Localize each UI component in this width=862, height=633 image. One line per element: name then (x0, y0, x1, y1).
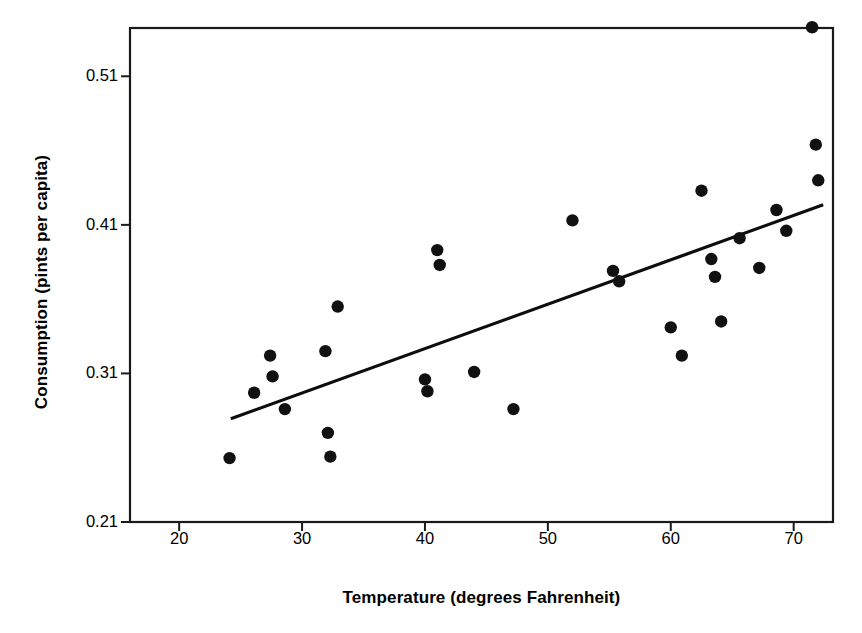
data-point-8 (332, 300, 344, 312)
data-point-24 (733, 232, 745, 244)
data-point-7 (324, 450, 336, 462)
data-point-1 (248, 387, 260, 399)
data-points (223, 21, 824, 464)
x-tick-label-2: 40 (395, 530, 455, 547)
data-point-9 (419, 373, 431, 385)
data-point-29 (810, 138, 822, 150)
data-point-2 (264, 349, 276, 361)
scatter-plot-figure: Consumption (pints per capita) Temperatu… (0, 0, 862, 633)
y-tick-label-2: 0.41 (86, 216, 118, 233)
data-point-10 (421, 385, 433, 397)
data-point-4 (279, 403, 291, 415)
data-point-6 (322, 427, 334, 439)
data-point-13 (468, 366, 480, 378)
y-tick-label-3: 0.51 (86, 67, 118, 84)
data-point-28 (806, 21, 818, 33)
x-axis-label: Temperature (degrees Fahrenheit) (130, 588, 833, 608)
data-point-5 (319, 345, 331, 357)
data-point-23 (715, 315, 727, 327)
data-point-14 (507, 403, 519, 415)
y-axis-label: Consumption (pints per capita) (32, 132, 52, 432)
axis-ticks (121, 76, 794, 531)
plot-border (130, 28, 833, 522)
x-tick-label-4: 60 (641, 530, 701, 547)
data-point-0 (223, 452, 235, 464)
y-tick-label-0: 0.21 (86, 513, 118, 530)
x-tick-label-1: 30 (272, 530, 332, 547)
data-point-17 (613, 275, 625, 287)
data-point-22 (709, 271, 721, 283)
data-point-27 (780, 225, 792, 237)
axes-frame (130, 28, 833, 522)
data-point-18 (665, 321, 677, 333)
y-tick-label-1: 0.31 (86, 364, 118, 381)
data-point-12 (434, 259, 446, 271)
x-tick-label-3: 50 (518, 530, 578, 547)
data-point-21 (705, 253, 717, 265)
x-tick-label-0: 20 (149, 530, 209, 547)
trendline-segment (231, 205, 823, 419)
data-point-26 (770, 204, 782, 216)
data-point-30 (812, 174, 824, 186)
data-point-19 (676, 349, 688, 361)
data-point-20 (695, 184, 707, 196)
data-point-16 (607, 265, 619, 277)
data-point-25 (753, 262, 765, 274)
regression-trendline (231, 205, 823, 419)
data-point-15 (566, 214, 578, 226)
x-tick-label-5: 70 (764, 530, 824, 547)
data-point-11 (431, 244, 443, 256)
data-point-3 (266, 370, 278, 382)
